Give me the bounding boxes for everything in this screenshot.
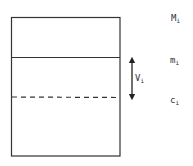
dashed-level-line xyxy=(12,97,120,98)
label-M-i: Mi xyxy=(171,14,180,25)
label-m-sub: i xyxy=(175,59,179,66)
label-m-i: mi xyxy=(170,56,179,67)
label-V-sub: i xyxy=(140,77,144,84)
diagram-canvas xyxy=(0,0,193,166)
label-c-sub: i xyxy=(175,99,179,106)
container-box xyxy=(12,18,121,157)
label-V-i: Vi xyxy=(135,74,144,85)
label-c-i: ci xyxy=(170,96,179,107)
label-M-sub: i xyxy=(176,17,180,24)
